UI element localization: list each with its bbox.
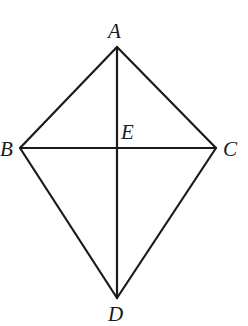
label-c: C <box>223 137 238 161</box>
segment-bd <box>20 148 117 298</box>
segment-cd <box>117 148 216 298</box>
segment-ab <box>20 47 117 148</box>
label-a: A <box>106 19 121 43</box>
label-d: D <box>107 302 123 326</box>
kite-diagram: A B C E D <box>0 0 248 326</box>
label-e: E <box>120 120 134 144</box>
label-b: B <box>0 137 13 161</box>
